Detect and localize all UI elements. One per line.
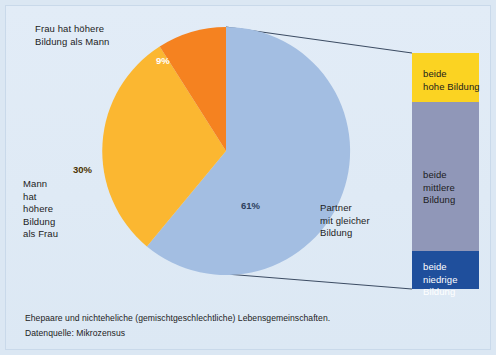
bar-label-niedrige-bildung: beide niedrige Bildung	[423, 261, 490, 299]
bar-label-hohe-bildung: beide hohe Bildung	[423, 68, 480, 93]
chart-plate: Frau hat höhere Bildung als Mann Mann ha…	[5, 5, 491, 350]
connector-bottom-line	[226, 274, 412, 289]
footnote-block: Ehepaare und nichteheliche (gemischtgesc…	[25, 311, 445, 341]
figure-canvas: Frau hat höhere Bildung als Mann Mann ha…	[0, 0, 496, 355]
data-label-slice-gleich: 61%	[241, 200, 260, 211]
data-label-slice-mann: 30%	[73, 164, 92, 175]
footnote-source: Datenquelle: Mikrozensus	[25, 326, 445, 341]
label-frau-hoehere-bildung: Frau hat höhere Bildung als Mann	[35, 23, 109, 48]
footnote-definition: Ehepaare und nichteheliche (gemischtgesc…	[25, 311, 445, 326]
bar-label-mittlere-bildung: beide mittlere Bildung	[423, 169, 490, 207]
label-partner-gleiche-bildung: Partner mit gleicher Bildung	[320, 202, 370, 240]
data-label-slice-frau: 9%	[156, 55, 170, 66]
pie-chart	[102, 27, 350, 275]
chart-graphics	[6, 6, 492, 351]
label-mann-hoehere-bildung: Mann hat höhere Bildung als Frau	[23, 178, 58, 241]
